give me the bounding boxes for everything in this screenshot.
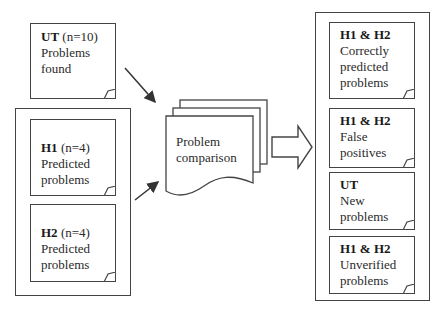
problem-comparison-label: Problem comparison	[176, 134, 256, 166]
result-1-line-3: problems	[340, 75, 408, 91]
hollow-arrow-to-results	[272, 126, 312, 168]
h1-predicted-note: H1 (n=4) Predicted problems	[30, 119, 116, 196]
page-fold-icon	[104, 186, 116, 196]
result-unverified-note: H1 & H2 Unverified problems	[329, 236, 415, 294]
h2-line-2: problems	[41, 257, 109, 273]
result-correctly-predicted-note: H1 & H2 Correctly predicted problems	[329, 22, 415, 99]
result-4-line-1: Unverified	[340, 257, 408, 273]
page-fold-icon	[104, 89, 116, 99]
ut-count: (n=10)	[59, 29, 98, 44]
result-1-label: H1 & H2	[340, 27, 391, 42]
ut-line-2: found	[41, 61, 109, 77]
result-false-positives-note: H1 & H2 False positives	[329, 108, 415, 168]
ut-line-1: Problems	[41, 45, 109, 61]
h2-predicted-note: H2 (n=4) Predicted problems	[30, 204, 116, 282]
h1-label: H1	[41, 140, 58, 155]
result-4-line-2: problems	[340, 273, 408, 289]
h1-line-1: Predicted	[41, 156, 109, 172]
page-fold-icon	[403, 284, 415, 294]
result-1-line-2: predicted	[340, 59, 408, 75]
h2-line-1: Predicted	[41, 241, 109, 257]
result-3-line-2: problems	[340, 209, 408, 225]
ut-label: UT	[41, 29, 59, 44]
result-3-label: UT	[340, 177, 358, 192]
page-fold-icon	[104, 272, 116, 282]
result-2-label: H1 & H2	[340, 113, 391, 128]
h1-line-2: problems	[41, 172, 109, 188]
page-fold-icon	[403, 158, 415, 168]
arrow-ut-to-comparison	[125, 68, 155, 102]
arrow-heuristics-to-comparison	[135, 182, 158, 200]
result-3-line-1: New	[340, 193, 408, 209]
result-2-line-1: False	[340, 129, 408, 145]
result-new-problems-note: UT New problems	[329, 172, 415, 230]
result-4-label: H1 & H2	[340, 241, 391, 256]
page-fold-icon	[403, 89, 415, 99]
h2-count: (n=4)	[58, 225, 90, 240]
comparison-line-1: Problem	[176, 134, 256, 150]
h1-count: (n=4)	[58, 140, 90, 155]
result-1-line-1: Correctly	[340, 43, 408, 59]
h2-label: H2	[41, 225, 58, 240]
page-fold-icon	[403, 220, 415, 230]
comparison-line-2: comparison	[176, 150, 256, 166]
ut-problems-found-note: UT (n=10) Problems found	[30, 23, 116, 99]
result-2-line-2: positives	[340, 145, 408, 161]
